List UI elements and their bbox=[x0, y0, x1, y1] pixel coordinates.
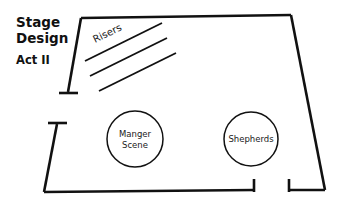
act-subtitle: Act II bbox=[16, 53, 50, 67]
manger-scene-label-line1: Manger bbox=[119, 129, 152, 139]
manger-scene-label-line2: Scene bbox=[122, 140, 148, 150]
shepherds-label: Shepherds bbox=[228, 134, 274, 144]
heading-line-1: Stage bbox=[16, 14, 60, 30]
stage-design-diagram: Risers Manger Scene Shepherds Stage Desi… bbox=[0, 0, 343, 212]
heading-line-2: Design bbox=[16, 30, 68, 46]
